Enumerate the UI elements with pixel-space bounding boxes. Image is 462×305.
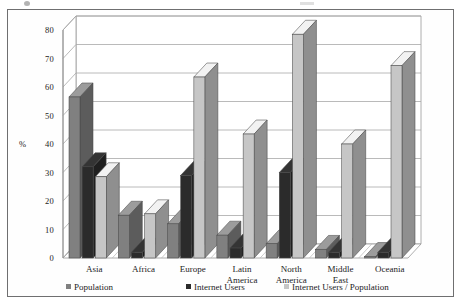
legend-item-internet-users[interactable]: Internet Users: [186, 282, 245, 292]
y-tick-20: 20: [32, 196, 54, 206]
legend-item-internet-users-population[interactable]: Internet Users / Population: [284, 282, 389, 292]
scan-artifact-speck: [24, 1, 30, 6]
bar-chart: 01020304050607080 % AsiaAfricaEuropeLati…: [8, 10, 455, 298]
legend-swatch-icon: [66, 284, 71, 289]
y-tick-60: 60: [32, 82, 54, 92]
chart-plot-svg: [8, 10, 455, 298]
scan-artifact-smudge: [300, 2, 314, 5]
bar-oceania-internet-users-population: [391, 52, 415, 258]
y-tick-10: 10: [32, 225, 54, 235]
legend-label: Internet Users: [194, 282, 245, 292]
legend-swatch-icon: [186, 284, 191, 289]
x-tick-oceania: Oceania: [360, 264, 420, 275]
bar-europe-internet-users-population: [194, 63, 218, 258]
y-tick-0: 0: [32, 253, 54, 263]
x-tick-line: Oceania: [360, 264, 420, 275]
y-tick-50: 50: [32, 111, 54, 121]
figure-frame: 01020304050607080 % AsiaAfricaEuropeLati…: [7, 9, 454, 297]
chart-legend: PopulationInternet UsersInternet Users /…: [66, 282, 446, 296]
legend-label: Population: [74, 282, 113, 292]
y-tick-40: 40: [32, 139, 54, 149]
legend-item-population[interactable]: Population: [66, 282, 113, 292]
y-tick-80: 80: [32, 25, 54, 35]
bar-north-america-internet-users-population: [292, 20, 316, 258]
y-axis-title: %: [19, 139, 26, 149]
y-tick-30: 30: [32, 168, 54, 178]
bar-latin-america-internet-users-population: [243, 120, 267, 258]
bar-middle-east-internet-users-population: [342, 130, 366, 258]
legend-label: Internet Users / Population: [292, 282, 389, 292]
legend-swatch-icon: [284, 284, 289, 289]
bar-asia-internet-users-population: [95, 163, 119, 258]
y-tick-70: 70: [32, 54, 54, 64]
